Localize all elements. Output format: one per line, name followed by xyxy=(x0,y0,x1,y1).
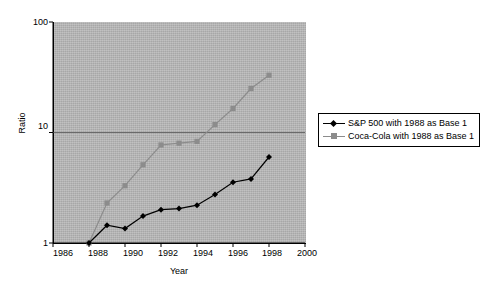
x-axis-title: Year xyxy=(53,266,305,276)
plot-background-texture xyxy=(54,22,306,243)
x-tick-label-1994: 1994 xyxy=(186,249,220,258)
chart-figure: 100 10 1 1986 1988 1990 1992 1994 1996 1… xyxy=(0,0,492,289)
y-tick-label-1: 1 xyxy=(4,239,48,248)
x-tick-label-1990: 1990 xyxy=(116,249,150,258)
x-tick-label-1998: 1998 xyxy=(255,249,289,258)
legend-marker-diamond-icon xyxy=(323,118,345,129)
legend-marker-square-icon xyxy=(323,131,345,142)
x-tick-label-1996: 1996 xyxy=(221,249,255,258)
x-tick-label-1988: 1988 xyxy=(81,249,115,258)
legend-item-cocacola[interactable]: Coca-Cola with 1988 as Base 1 xyxy=(323,130,475,143)
legend-label-sp500: S&P 500 with 1988 as Base 1 xyxy=(348,118,467,129)
plot-area xyxy=(53,22,306,244)
legend: S&P 500 with 1988 as Base 1 Coca-Cola wi… xyxy=(318,113,480,147)
legend-item-sp500[interactable]: S&P 500 with 1988 as Base 1 xyxy=(323,117,475,130)
x-tick-label-2000: 2000 xyxy=(290,249,324,258)
x-tick-label-1992: 1992 xyxy=(151,249,185,258)
y-axis-title: Ratio xyxy=(17,93,27,153)
x-tick-label-1986: 1986 xyxy=(46,249,80,258)
legend-label-cocacola: Coca-Cola with 1988 as Base 1 xyxy=(348,131,474,142)
y-tick-label-100: 100 xyxy=(4,18,48,27)
